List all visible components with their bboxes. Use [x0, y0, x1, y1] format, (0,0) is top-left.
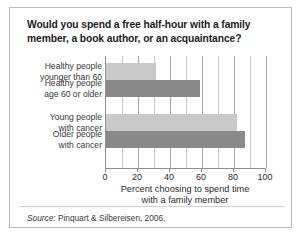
category-label-line: Older people — [20, 129, 102, 140]
chart-title: Would you spend a free half-hour with a … — [27, 18, 277, 45]
source-citation: Pinquart & Silbereisen, 2006. — [56, 213, 166, 223]
source-label: Source: — [27, 213, 56, 223]
bars-layer — [106, 56, 266, 168]
bar — [106, 63, 156, 80]
x-axis-title: Percent choosing to spend timewith a fam… — [90, 184, 280, 206]
figure-frame: Would you spend a free half-hour with a … — [9, 7, 292, 228]
category-label-line: Young people — [20, 112, 102, 123]
source-note: Source: Pinquart & Silbereisen, 2006. — [27, 213, 165, 223]
category-label-line: Healthy people — [20, 78, 102, 89]
category-label: Healthy peopleage 60 or older — [20, 78, 102, 99]
category-label-line: Healthy people — [20, 61, 102, 72]
x-tick-label: 20 — [132, 172, 142, 182]
x-tick-label: 80 — [228, 172, 238, 182]
plot-frame — [105, 56, 266, 169]
footer-divider — [19, 206, 284, 207]
bar — [106, 131, 245, 148]
category-label-line: age 60 or older — [20, 89, 102, 100]
x-axis-ticks: 020406080100 — [105, 169, 265, 183]
x-tick-label: 100 — [257, 172, 272, 182]
category-label-line: with cancer — [20, 140, 102, 151]
bar — [106, 80, 200, 97]
x-tick-label: 60 — [196, 172, 206, 182]
x-tick-label: 40 — [164, 172, 174, 182]
gridline-major — [266, 56, 267, 168]
x-axis-title-line: with a family member — [90, 195, 280, 206]
x-tick-label: 0 — [102, 172, 107, 182]
x-axis-title-line: Percent choosing to spend time — [90, 184, 280, 195]
category-axis-labels: Healthy peopleyounger than 60Healthy peo… — [20, 56, 102, 168]
bar — [106, 114, 237, 131]
category-label: Older peoplewith cancer — [20, 129, 102, 150]
plot-area: 020406080100 — [105, 56, 266, 168]
